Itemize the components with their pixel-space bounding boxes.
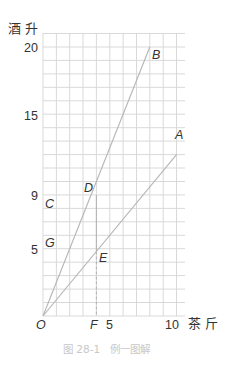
y-tick-15: 15 [24, 109, 38, 123]
y-tick-9: 9 [31, 189, 38, 203]
x-tick-5: 5 [106, 318, 113, 332]
y-axis-label: 酒 升 [8, 21, 38, 36]
origin-label: O [36, 318, 46, 332]
point-label-E: E [99, 251, 108, 265]
point-label-F: F [90, 318, 99, 332]
figure-caption: 图 28-1 例一图解 [63, 343, 151, 355]
point-label-B: B [152, 48, 160, 62]
point-label-G: G [45, 236, 55, 250]
x-axis-label: 茶 斤 [188, 316, 218, 331]
point-label-C: C [45, 197, 55, 211]
point-label-D: D [84, 181, 93, 195]
point-label-A: A [174, 128, 183, 142]
diagram-canvas: 酒 升 茶 斤 20 15 9 5 O F 5 10 B A D C G E 图… [0, 0, 231, 374]
y-tick-5: 5 [31, 243, 38, 257]
y-tick-20: 20 [24, 41, 38, 55]
grid [43, 33, 185, 316]
x-tick-10: 10 [165, 318, 179, 332]
